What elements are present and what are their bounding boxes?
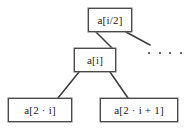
ellipsis-dot: [180, 52, 182, 54]
node-current: a[i]: [74, 48, 116, 72]
edge-parent-to-continuation: [126, 32, 150, 45]
edge-parent-to-current: [96, 32, 112, 48]
node-right-child: a[2 · i + 1]: [100, 98, 178, 122]
ellipsis-dots: [148, 46, 182, 60]
ellipsis-dot: [148, 52, 150, 54]
edge-current-to-left-child: [58, 72, 79, 98]
node-parent: a[i/2]: [88, 8, 132, 32]
edge-current-to-right-child: [110, 72, 128, 98]
ellipsis-dot: [159, 52, 161, 54]
heap-tree-diagram: a[i/2] a[i] a[2 · i] a[2 · i + 1]: [0, 0, 185, 128]
node-left-child: a[2 · i]: [8, 98, 72, 122]
ellipsis-dot: [169, 52, 171, 54]
